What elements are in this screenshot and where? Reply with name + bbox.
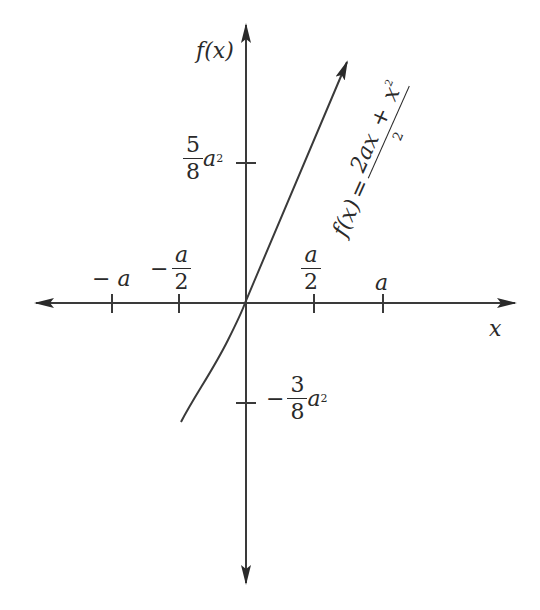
- y-tick-label-five-eighths: 5 8 a2: [183, 134, 223, 183]
- exponent: 2: [321, 393, 328, 404]
- numerator: 5: [183, 134, 203, 159]
- x-tick-label-neg-a-text: − a: [92, 266, 131, 291]
- fraction: 5 8: [183, 134, 203, 183]
- x-tick-label-half-a: a 2: [301, 244, 321, 293]
- variable: a: [307, 388, 320, 410]
- x-axis-label: x: [489, 318, 501, 340]
- y-axis-label: f(x): [196, 40, 234, 62]
- y-tick-label-neg-three-eighths: − 3 8 a2: [266, 374, 328, 423]
- function-curve: [181, 62, 347, 422]
- fraction: a 2: [301, 244, 321, 293]
- numerator: 3: [287, 374, 307, 399]
- minus-sign: −: [150, 258, 168, 280]
- denominator: 2: [301, 269, 321, 293]
- x-tick-label-neg-a: − a: [92, 268, 131, 290]
- x-tick-label-neg-half-a: − a 2: [150, 244, 191, 293]
- x-tick-label-a: a: [375, 272, 388, 294]
- variable: a: [203, 148, 216, 170]
- minus-sign: −: [266, 388, 284, 410]
- numerator: a: [301, 244, 320, 269]
- numerator: a: [172, 244, 191, 269]
- denominator: 8: [287, 399, 307, 423]
- denominator: 8: [183, 159, 203, 183]
- fraction: a 2: [171, 244, 191, 293]
- function-graph: [0, 0, 540, 610]
- exponent: 2: [216, 153, 223, 164]
- fraction: 3 8: [287, 374, 307, 423]
- denominator: 2: [171, 269, 191, 293]
